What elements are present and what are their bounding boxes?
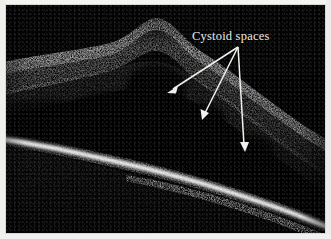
arrow-to-middle-cystoid [201, 47, 239, 120]
paper-margin-bottom [0, 234, 331, 239]
annotation-arrows [6, 5, 326, 234]
oct-image-frame: Cystoid spaces [5, 4, 326, 234]
paper-margin-right [326, 0, 331, 239]
arrow-to-right-cystoid [238, 47, 249, 152]
annotation-overlay: Cystoid spaces [6, 5, 325, 233]
oct-figure: Cystoid spaces [0, 0, 331, 239]
arrow-to-left-cystoid [167, 47, 238, 94]
